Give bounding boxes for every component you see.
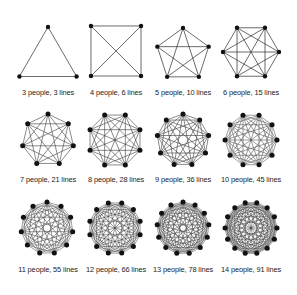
person-node-dot <box>263 74 267 78</box>
connection-line <box>37 146 74 164</box>
person-node-dot <box>181 200 186 205</box>
person-node-dot <box>94 244 99 249</box>
person-node-dot <box>277 50 281 54</box>
person-node-dot <box>159 211 164 216</box>
connection-line <box>33 206 67 245</box>
connection-line <box>166 120 208 135</box>
complete-graph-14-people <box>223 200 280 256</box>
person-node-dot <box>52 250 57 255</box>
person-node-dot <box>139 24 143 28</box>
person-node-dot <box>198 245 203 250</box>
complete-graph-8-people <box>88 113 143 168</box>
connection-line <box>225 140 272 155</box>
person-node-dot <box>106 200 111 205</box>
person-node-dot <box>46 112 51 117</box>
person-node-dot <box>254 251 259 256</box>
person-node-dot <box>265 246 270 251</box>
person-node-dot <box>45 200 50 205</box>
person-node-dot <box>30 204 35 209</box>
person-node-dot <box>225 237 230 242</box>
person-node-dot <box>131 207 136 212</box>
person-node-dot <box>257 113 262 118</box>
connection-line <box>230 125 277 140</box>
person-node-dot <box>155 44 159 48</box>
person-node-dot <box>59 204 64 209</box>
person-node-dot <box>243 251 248 256</box>
person-node-dot <box>19 229 24 234</box>
person-node-dot <box>232 246 237 251</box>
complete-graph-10-people <box>223 113 280 167</box>
person-node-dot <box>272 237 277 242</box>
connection-line <box>28 124 74 146</box>
person-node-dot <box>87 232 92 237</box>
connection-line <box>105 115 140 150</box>
graph-label-6-people: 6 people, 15 lines <box>211 88 291 97</box>
person-node-dot <box>270 122 275 127</box>
person-node-dot <box>275 138 280 143</box>
connection-line <box>183 114 200 120</box>
person-node-dot <box>227 122 232 127</box>
connection-line <box>21 217 70 232</box>
person-node-dot <box>275 226 280 231</box>
person-node-dot <box>270 153 275 158</box>
person-node-dot <box>57 161 62 166</box>
person-node-dot <box>223 226 228 231</box>
person-node-dot <box>257 162 262 167</box>
connection-line <box>167 47 209 77</box>
person-node-dot <box>139 74 143 78</box>
connection-line <box>28 114 48 124</box>
person-node-dot <box>263 26 267 30</box>
person-node-dot <box>189 162 194 167</box>
complete-graph-diagram <box>0 0 297 295</box>
connection-line <box>19 27 48 77</box>
person-node-dot <box>102 162 107 167</box>
person-node-dot <box>193 202 198 207</box>
person-node-dot <box>89 74 93 78</box>
person-node-dot <box>25 121 30 126</box>
complete-graph-9-people <box>155 112 211 167</box>
complete-graph-13-people <box>155 200 212 256</box>
person-node-dot <box>197 118 202 123</box>
person-node-dot <box>187 251 192 256</box>
person-node-dot <box>119 251 124 256</box>
connection-line <box>125 150 140 165</box>
person-node-dot <box>138 219 143 224</box>
person-node-dot <box>227 153 232 158</box>
connection-line <box>90 130 125 165</box>
person-node-dot <box>155 133 160 138</box>
person-node-dot <box>17 74 21 78</box>
person-node-dot <box>137 127 142 132</box>
person-node-dot <box>68 215 73 220</box>
connection-line <box>23 124 69 146</box>
connection-line <box>230 140 277 155</box>
person-node-dot <box>172 162 177 167</box>
person-node-dot <box>74 74 78 78</box>
complete-graph-12-people <box>87 200 142 255</box>
person-node-dot <box>265 205 270 210</box>
person-node-dot <box>197 75 201 79</box>
person-node-dot <box>168 202 173 207</box>
connection-line <box>192 153 206 164</box>
person-node-dot <box>181 112 186 117</box>
person-node-dot <box>123 162 128 167</box>
person-node-dot <box>34 161 39 166</box>
connection-line <box>90 115 105 130</box>
person-node-dot <box>89 24 93 28</box>
person-node-dot <box>235 26 239 30</box>
connection-line <box>23 146 60 164</box>
person-node-dot <box>240 162 245 167</box>
connection-line <box>23 217 72 232</box>
person-node-dot <box>94 207 99 212</box>
person-node-dot <box>137 148 142 153</box>
complete-graph-7-people <box>20 112 76 166</box>
person-node-dot <box>123 113 128 118</box>
connection-line <box>90 150 105 165</box>
person-node-dot <box>106 251 111 256</box>
person-node-dot <box>88 148 93 153</box>
connection-line <box>90 115 125 150</box>
person-node-dot <box>20 143 25 148</box>
connection-line <box>183 28 199 77</box>
graph-label-10-people: 10 people, 45 lines <box>211 175 291 184</box>
person-node-dot <box>155 222 160 227</box>
connection-line <box>48 114 68 124</box>
